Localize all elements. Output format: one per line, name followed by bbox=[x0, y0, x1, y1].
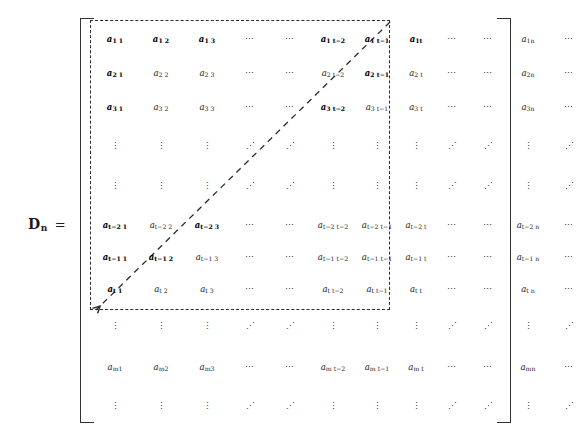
matrix-entry: a2 3 bbox=[184, 64, 230, 82]
vertical-ellipsis: ⋮ bbox=[310, 178, 356, 196]
diagonal-ellipsis: ⋰ bbox=[434, 178, 470, 196]
horizontal-ellipsis: ⋯ bbox=[550, 358, 578, 376]
matrix-entry: at n bbox=[506, 280, 550, 298]
horizontal-ellipsis: ⋯ bbox=[434, 216, 470, 234]
horizontal-ellipsis: ⋯ bbox=[270, 64, 310, 82]
vertical-ellipsis: ⋮ bbox=[356, 318, 398, 336]
matrix-entry: am t−1 bbox=[356, 358, 398, 376]
matrix-entry: at−1 1 bbox=[92, 248, 138, 266]
matrix-ellipsis-row: ⋮⋮⋮⋰⋰⋮⋮⋮⋰⋰⋮⋰ bbox=[92, 398, 496, 416]
equals-sign: = bbox=[55, 217, 66, 232]
matrix-entry: at−2 n bbox=[506, 216, 550, 234]
vertical-ellipsis: ⋮ bbox=[398, 138, 434, 156]
matrix-entry: a1t bbox=[398, 30, 434, 48]
horizontal-ellipsis: ⋯ bbox=[230, 216, 270, 234]
horizontal-ellipsis: ⋯ bbox=[470, 64, 506, 82]
vertical-ellipsis: ⋮ bbox=[310, 398, 356, 416]
matrix-entry: at t bbox=[398, 280, 434, 298]
diagonal-ellipsis: ⋰ bbox=[270, 138, 310, 156]
horizontal-ellipsis: ⋯ bbox=[550, 98, 578, 116]
matrix-entry: at−2 t−2 bbox=[310, 216, 356, 234]
matrix-entry: at−1 n bbox=[506, 248, 550, 266]
vertical-ellipsis: ⋮ bbox=[92, 178, 138, 196]
diagonal-ellipsis: ⋰ bbox=[270, 398, 310, 416]
matrix-entry: at t−1 bbox=[356, 280, 398, 298]
matrix-entry: am t−2 bbox=[310, 358, 356, 376]
matrix-entry: a3 2 bbox=[138, 98, 184, 116]
matrix-symbol: D bbox=[28, 216, 41, 232]
horizontal-ellipsis: ⋯ bbox=[470, 216, 506, 234]
horizontal-ellipsis: ⋯ bbox=[550, 216, 578, 234]
matrix-row: a2 1a2 2a2 3⋯⋯a2 t−2a2 t−1a2 t⋯⋯a2n⋯ bbox=[92, 64, 496, 82]
horizontal-ellipsis: ⋯ bbox=[270, 30, 310, 48]
horizontal-ellipsis: ⋯ bbox=[550, 30, 578, 48]
horizontal-ellipsis: ⋯ bbox=[230, 98, 270, 116]
matrix-row: a1 1a1 2a1 3⋯⋯a1 t−2a1 t−1a1t⋯⋯a1n⋯ bbox=[92, 30, 496, 48]
matrix-entry: at−1 3 bbox=[184, 248, 230, 266]
matrix-entry: am2 bbox=[138, 358, 184, 376]
matrix-row: at−2 1at−2 2at−2 3⋯⋯at−2 t−2at−2 t−1at−2… bbox=[92, 216, 496, 234]
horizontal-ellipsis: ⋯ bbox=[230, 30, 270, 48]
diagonal-ellipsis: ⋰ bbox=[550, 178, 578, 196]
horizontal-ellipsis: ⋯ bbox=[230, 280, 270, 298]
matrix-ellipsis-row: ⋮⋮⋮⋰⋰⋮⋮⋮⋰⋰⋮⋰ bbox=[92, 178, 496, 196]
diagonal-ellipsis: ⋰ bbox=[470, 178, 506, 196]
horizontal-ellipsis: ⋯ bbox=[434, 280, 470, 298]
horizontal-ellipsis: ⋯ bbox=[270, 216, 310, 234]
matrix-entry: a2 t bbox=[398, 64, 434, 82]
horizontal-ellipsis: ⋯ bbox=[230, 358, 270, 376]
vertical-ellipsis: ⋮ bbox=[138, 138, 184, 156]
matrix-entry: a1 1 bbox=[92, 30, 138, 48]
matrix-label: Dn= bbox=[28, 216, 66, 233]
diagonal-ellipsis: ⋰ bbox=[434, 138, 470, 156]
horizontal-ellipsis: ⋯ bbox=[270, 98, 310, 116]
matrix-row: at−1 1at−1 2at−1 3⋯⋯at−1 t−2at−1 t−1at−1… bbox=[92, 248, 496, 266]
matrix-symbol-subscript: n bbox=[41, 223, 48, 233]
diagonal-ellipsis: ⋰ bbox=[270, 178, 310, 196]
horizontal-ellipsis: ⋯ bbox=[550, 64, 578, 82]
vertical-ellipsis: ⋮ bbox=[506, 318, 550, 336]
vertical-ellipsis: ⋮ bbox=[184, 178, 230, 196]
horizontal-ellipsis: ⋯ bbox=[270, 358, 310, 376]
matrix-grid: a1 1a1 2a1 3⋯⋯a1 t−2a1 t−1a1t⋯⋯a1n⋯a2 1a… bbox=[92, 22, 496, 422]
diagonal-ellipsis: ⋰ bbox=[434, 318, 470, 336]
horizontal-ellipsis: ⋯ bbox=[434, 358, 470, 376]
matrix-entry: at−2 3 bbox=[184, 216, 230, 234]
horizontal-ellipsis: ⋯ bbox=[230, 64, 270, 82]
matrix-row: at 1at 2at 3⋯⋯at t−2at t−1at t⋯⋯at n⋯ bbox=[92, 280, 496, 298]
matrix-entry: at 3 bbox=[184, 280, 230, 298]
horizontal-ellipsis: ⋯ bbox=[270, 248, 310, 266]
diagonal-ellipsis: ⋰ bbox=[434, 398, 470, 416]
vertical-ellipsis: ⋮ bbox=[310, 138, 356, 156]
vertical-ellipsis: ⋮ bbox=[356, 138, 398, 156]
horizontal-ellipsis: ⋯ bbox=[470, 280, 506, 298]
vertical-ellipsis: ⋮ bbox=[356, 178, 398, 196]
diagonal-ellipsis: ⋰ bbox=[470, 138, 506, 156]
horizontal-ellipsis: ⋯ bbox=[270, 280, 310, 298]
matrix-entry: at 1 bbox=[92, 280, 138, 298]
matrix-entry: a1 3 bbox=[184, 30, 230, 48]
vertical-ellipsis: ⋮ bbox=[138, 318, 184, 336]
matrix-row: a3 1a3 2a3 3⋯⋯a3 t−2a3 t−1a3 t⋯⋯a3n⋯ bbox=[92, 98, 496, 116]
diagonal-ellipsis: ⋰ bbox=[230, 178, 270, 196]
diagonal-ellipsis: ⋰ bbox=[550, 398, 578, 416]
vertical-ellipsis: ⋮ bbox=[506, 398, 550, 416]
vertical-ellipsis: ⋮ bbox=[398, 318, 434, 336]
vertical-ellipsis: ⋮ bbox=[138, 398, 184, 416]
matrix-entry: at−2 t bbox=[398, 216, 434, 234]
matrix-entry: at−1 t−1 bbox=[356, 248, 398, 266]
matrix-entry: a3 3 bbox=[184, 98, 230, 116]
horizontal-ellipsis: ⋯ bbox=[434, 98, 470, 116]
matrix-entry: a2n bbox=[506, 64, 550, 82]
horizontal-ellipsis: ⋯ bbox=[230, 248, 270, 266]
horizontal-ellipsis: ⋯ bbox=[550, 248, 578, 266]
vertical-ellipsis: ⋮ bbox=[184, 398, 230, 416]
matrix-entry: am1 bbox=[92, 358, 138, 376]
matrix-entry: at−2 t−1 bbox=[356, 216, 398, 234]
matrix-ellipsis-row: ⋮⋮⋮⋰⋰⋮⋮⋮⋰⋰⋮⋰ bbox=[92, 318, 496, 336]
matrix-entry: at−2 2 bbox=[138, 216, 184, 234]
diagonal-ellipsis: ⋰ bbox=[230, 318, 270, 336]
matrix-entry: at−1 t bbox=[398, 248, 434, 266]
vertical-ellipsis: ⋮ bbox=[310, 318, 356, 336]
vertical-ellipsis: ⋮ bbox=[398, 178, 434, 196]
